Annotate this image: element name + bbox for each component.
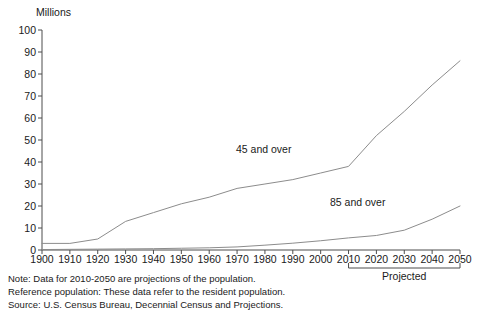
series-label-85-and-over: 85 and over <box>330 196 385 208</box>
footnote-source: Source: U.S. Census Bureau, Decennial Ce… <box>8 298 285 311</box>
data-series-lines <box>42 61 460 250</box>
population-line-chart: Millions 1009080706050403020100 19001910… <box>0 0 482 317</box>
y-tick-label: 20 <box>8 200 36 212</box>
y-tick-label: 10 <box>8 222 36 234</box>
y-tick-label: 80 <box>8 68 36 80</box>
y-tick-label: 70 <box>8 90 36 102</box>
chart-axes <box>42 30 460 250</box>
projected-bracket-label: Projected <box>349 270 460 282</box>
x-tick-label: 2050 <box>443 253 477 265</box>
y-tick-label: 50 <box>8 134 36 146</box>
series-label-45-and-over: 45 and over <box>236 143 291 155</box>
y-axis-unit-label: Millions <box>36 6 71 18</box>
footnote-note: Note: Data for 2010-2050 are projections… <box>8 272 285 285</box>
y-tick-label: 60 <box>8 112 36 124</box>
y-axis-tick-labels: 1009080706050403020100 <box>4 0 36 317</box>
chart-footnotes: Note: Data for 2010-2050 are projections… <box>8 272 285 312</box>
footnote-reference: Reference population: These data refer t… <box>8 285 285 298</box>
y-tick-label: 30 <box>8 178 36 190</box>
y-tick-label: 90 <box>8 46 36 58</box>
y-tick-label: 100 <box>8 24 36 36</box>
chart-tick-marks <box>38 30 460 254</box>
series-line-85-and-over <box>42 206 460 250</box>
y-tick-label: 40 <box>8 156 36 168</box>
